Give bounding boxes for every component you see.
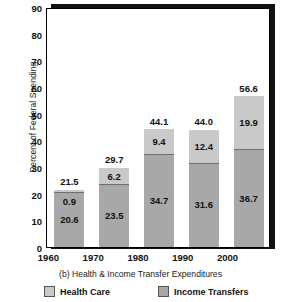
bar-value-label-income-transfers: 23.5 [99,211,129,221]
x-tick-label: 1970 [73,252,113,263]
legend-item[interactable]: Income Transfers [158,286,249,297]
chart-legend: Health CareIncome Transfers [0,286,281,300]
x-tick-label: 1960 [28,252,68,263]
bar-total-label: 44.0 [183,117,225,127]
x-tick-label: 1980 [118,252,158,263]
bar-group[interactable]: 34.79.444.1 [144,129,174,247]
y-tick-label: 50 [20,109,42,120]
bar-segment-health-care[interactable] [54,190,84,192]
legend-label: Income Transfers [174,287,249,297]
y-tick-label: 90 [20,3,42,14]
x-axis-ticks: 19601970198019902000 [46,252,270,266]
bar-value-label-income-transfers: 20.6 [54,215,84,225]
x-tick-label: 1990 [163,252,203,263]
bar-group[interactable]: 23.56.229.7 [99,168,129,247]
bar-value-label-health-care: 12.4 [189,142,219,152]
legend-label: Health Care [60,287,110,297]
y-tick-label: 30 [20,163,42,174]
y-tick-label: 70 [20,56,42,67]
bar-value-label-income-transfers: 36.7 [234,194,264,204]
bar-value-label-health-care: 0.9 [54,197,84,207]
bar-total-label: 44.1 [138,117,180,127]
y-tick-label: 60 [20,83,42,94]
legend-item[interactable]: Health Care [44,286,110,297]
bar-total-label: 56.6 [228,84,270,94]
bar-group[interactable]: 20.60.921.5 [54,190,84,247]
y-tick-label: 80 [20,29,42,40]
bar-value-label-health-care: 6.2 [99,172,129,182]
bar-total-label: 29.7 [93,155,135,165]
bar-total-label: 21.5 [48,177,90,187]
bar-value-label-income-transfers: 31.6 [189,200,219,210]
bar-group[interactable]: 36.719.956.6 [234,96,264,247]
y-tick-label: 10 [20,216,42,227]
chart-caption: (b) Health & Income Transfer Expenditure… [0,269,281,279]
chart-figure: Percent of Federal Spending 010203040506… [0,0,281,302]
bar-group[interactable]: 31.612.444.0 [189,130,219,247]
bar-value-label-income-transfers: 34.7 [144,196,174,206]
y-tick-label: 20 [20,189,42,200]
bar-value-label-health-care: 9.4 [144,137,174,147]
bar-value-label-health-care: 19.9 [234,118,264,128]
legend-swatch-icon [44,286,55,297]
x-tick-label: 2000 [208,252,248,263]
plot-area: 20.60.921.523.56.229.734.79.444.131.612.… [47,9,269,247]
legend-swatch-icon [158,286,169,297]
y-tick-label: 40 [20,136,42,147]
plot-frame: 20.60.921.523.56.229.734.79.444.131.612.… [46,8,270,248]
y-axis-ticks: 0102030405060708090 [18,8,42,248]
